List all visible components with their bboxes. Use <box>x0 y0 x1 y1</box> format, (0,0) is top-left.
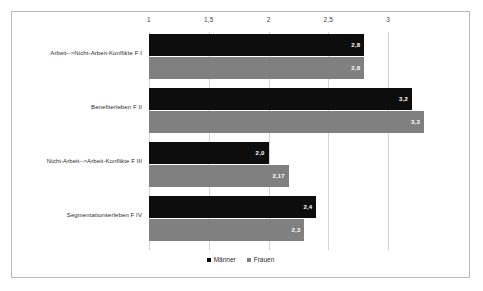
x-tick-label: 1,5 <box>204 16 214 23</box>
legend-label: Frauen <box>254 256 275 263</box>
legend-swatch-icon <box>247 258 251 262</box>
category-label: Nicht-Arbeit-->Arbeit-Konflikte F III <box>47 158 142 164</box>
category-label: Segmentationserleben F IV <box>67 212 142 218</box>
bar-value-label: 3,2 <box>399 96 412 102</box>
bar-group: Nicht-Arbeit-->Arbeit-Konflikte F III2,0… <box>149 142 430 188</box>
bar-frauen[interactable]: 3,3 <box>149 111 424 133</box>
chart-legend: MännerFrauen <box>12 256 469 263</box>
bar-maenner[interactable]: 2,8 <box>149 34 364 56</box>
bar-maenner[interactable]: 2,4 <box>149 196 316 218</box>
plot-area: 11,522,53 Arbeit-->Nicht-Arbeit-Konflikt… <box>149 32 430 250</box>
bar-value-label: 2,4 <box>303 204 316 210</box>
bar-frauen[interactable]: 2,3 <box>149 219 304 241</box>
bar-value-label: 2,0 <box>256 150 269 156</box>
bar-maenner[interactable]: 2,0 <box>149 142 269 164</box>
legend-item[interactable]: Männer <box>207 256 236 263</box>
category-label: Benefiterleben F II <box>91 104 142 110</box>
x-tick-label: 2 <box>267 16 271 23</box>
legend-item[interactable]: Frauen <box>247 256 275 263</box>
bar-value-label: 3,3 <box>411 119 424 125</box>
bar-value-label: 2,8 <box>351 65 364 71</box>
bar-group: Segmentationserleben F IV2,42,3 <box>149 196 430 242</box>
bar-group: Benefiterleben F II3,23,3 <box>149 88 430 134</box>
bar-group: Arbeit-->Nicht-Arbeit-Konflikte F I2,82,… <box>149 34 430 80</box>
category-label: Arbeit-->Nicht-Arbeit-Konflikte F I <box>50 50 142 56</box>
legend-label: Männer <box>214 256 236 263</box>
legend-swatch-icon <box>207 258 211 262</box>
bar-maenner[interactable]: 3,2 <box>149 88 412 110</box>
bar-value-label: 2,3 <box>291 227 304 233</box>
chart-frame: 11,522,53 Arbeit-->Nicht-Arbeit-Konflikt… <box>11 11 470 278</box>
bar-frauen[interactable]: 2,17 <box>149 165 289 187</box>
x-tick-label: 2,5 <box>324 16 334 23</box>
x-tick-label: 3 <box>386 16 390 23</box>
bar-frauen[interactable]: 2,8 <box>149 57 364 79</box>
x-tick-label: 1 <box>147 16 151 23</box>
bar-value-label: 2,17 <box>272 173 288 179</box>
bar-value-label: 2,8 <box>351 42 364 48</box>
